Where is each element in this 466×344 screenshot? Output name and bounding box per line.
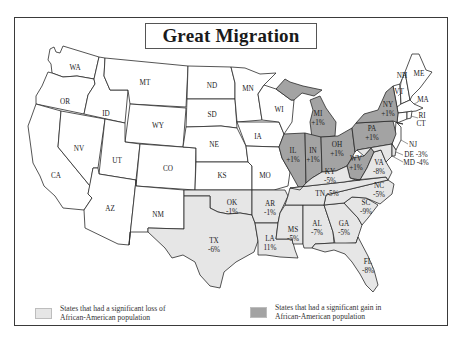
leader-RI xyxy=(411,116,418,118)
label-IL: IL xyxy=(290,147,297,155)
label-FL-change: -8% xyxy=(362,267,374,275)
label-MT: MT xyxy=(140,79,151,87)
legend-gain-line1: States that had a significant gain in xyxy=(275,303,381,312)
label-NV: NV xyxy=(74,145,85,153)
legend-gain-swatch xyxy=(250,307,267,318)
label-NH: NH xyxy=(397,72,407,80)
label-AR: AR xyxy=(265,200,275,208)
label-AL-change: -7% xyxy=(311,229,323,237)
label-IN-change: +1% xyxy=(306,156,320,164)
legend-loss-line2: African-American population xyxy=(60,313,165,322)
label-WV: WV xyxy=(350,155,363,163)
label-NC: NC xyxy=(374,182,384,190)
legend-loss: States that had a significant loss of Af… xyxy=(35,304,165,322)
label-OK: OK xyxy=(227,199,238,207)
label-IL-change: +1% xyxy=(286,156,300,164)
label-MD: MD -4% xyxy=(403,159,428,167)
label-ME: ME xyxy=(414,70,425,78)
label-TX: TX xyxy=(209,237,219,245)
label-AL: AL xyxy=(312,220,322,228)
label-MO: MO xyxy=(259,172,271,180)
label-VA-change: -8% xyxy=(373,168,385,176)
label-MA: MA xyxy=(417,96,429,104)
label-NJ: NJ xyxy=(409,141,417,149)
leader-DE xyxy=(396,152,403,155)
label-UT: UT xyxy=(112,157,122,165)
label-NY-change: +1% xyxy=(381,110,395,118)
label-OH-change: +1% xyxy=(330,150,344,158)
label-SC: SC xyxy=(362,199,371,207)
label-NM: NM xyxy=(152,211,164,219)
leader-NJ xyxy=(401,140,408,144)
label-SD: SD xyxy=(207,111,216,119)
label-FL: FL xyxy=(364,258,372,266)
label-ID: ID xyxy=(102,110,110,118)
label-LA-change: 11% xyxy=(264,244,277,252)
label-CT: CT xyxy=(416,120,426,128)
us-map: WA OR CA ID NV MT WY UT AZ CO NM ND SD N… xyxy=(0,0,466,344)
label-NY: NY xyxy=(383,101,394,109)
label-WI: WI xyxy=(274,106,284,114)
label-WV-change: +1% xyxy=(349,164,363,172)
map-title: Great Migration xyxy=(162,25,299,47)
label-OK-change: -1% xyxy=(226,208,238,216)
label-DE: DE -3% xyxy=(404,151,427,159)
leader-MD xyxy=(392,156,403,162)
label-MS: MS xyxy=(288,226,298,234)
legend-gain-line2: African-American population xyxy=(275,312,381,321)
label-TX-change: -6% xyxy=(208,246,220,254)
label-OR: OR xyxy=(60,98,70,106)
legend-gain-text: States that had a significant gain in Af… xyxy=(275,303,381,321)
legend-loss-text: States that had a significant loss of Af… xyxy=(60,304,165,322)
label-NE: NE xyxy=(209,141,219,149)
label-VA: VA xyxy=(374,159,384,167)
label-PA-change: +1% xyxy=(365,134,379,142)
label-KS: KS xyxy=(217,172,226,180)
label-IA: IA xyxy=(254,133,262,141)
label-WA: WA xyxy=(69,64,81,72)
label-MI: MI xyxy=(314,110,323,118)
legend-loss-swatch xyxy=(35,308,52,319)
label-MS-change: -5% xyxy=(287,235,299,243)
legend-gain: States that had a significant gain in Af… xyxy=(250,303,381,321)
label-MN: MN xyxy=(242,85,254,93)
legend-loss-line1: States that had a significant loss of xyxy=(60,304,165,313)
map-title-box: Great Migration xyxy=(145,23,317,49)
label-SC-change: -9% xyxy=(360,208,372,216)
label-AR-change: -1% xyxy=(264,209,276,217)
label-GA: GA xyxy=(339,220,350,228)
label-LA: LA xyxy=(265,235,275,243)
label-AZ: AZ xyxy=(105,205,115,213)
label-CO: CO xyxy=(163,165,173,173)
label-VT: VT xyxy=(394,88,404,96)
label-CA: CA xyxy=(51,172,62,180)
label-KY: KY xyxy=(325,168,336,176)
label-IN: IN xyxy=(309,147,317,155)
label-NC-change: -5% xyxy=(373,191,385,199)
label-TN: TN -5% xyxy=(315,190,338,198)
state-CT xyxy=(397,112,407,123)
label-ND: ND xyxy=(207,82,217,90)
label-OH: OH xyxy=(332,141,342,149)
label-RI: RI xyxy=(418,112,426,120)
label-PA: PA xyxy=(368,125,377,133)
label-KY-change: -5% xyxy=(324,177,336,185)
label-WY: WY xyxy=(152,122,165,130)
label-MI-change: +1% xyxy=(311,119,325,127)
state-RI xyxy=(407,111,412,119)
label-GA-change: -5% xyxy=(338,229,350,237)
